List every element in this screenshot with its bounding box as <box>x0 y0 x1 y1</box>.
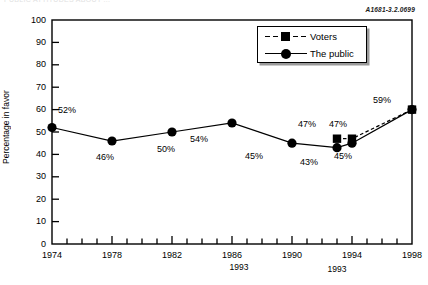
figure-container: PUBLIC ATTITUDES ABOUT ... A1681-3.2.069… <box>0 0 428 285</box>
y-axis-ticks <box>52 42 59 221</box>
square-marker-icon <box>281 32 290 41</box>
data-point-label: 45% <box>334 152 352 161</box>
legend-label-voters: Voters <box>310 32 337 42</box>
y-tick-label: 10 <box>18 217 46 226</box>
data-point-marker[interactable] <box>107 136 116 145</box>
data-point-marker[interactable] <box>287 139 296 148</box>
data-point-marker[interactable] <box>227 118 236 127</box>
legend-sample-the-public <box>262 47 310 61</box>
x-tick-label: 1978 <box>92 251 132 260</box>
x-tick-label: 1974 <box>32 251 72 260</box>
data-point-label: 54% <box>190 135 208 144</box>
series-line-voters <box>337 110 412 139</box>
legend-item-voters[interactable]: Voters <box>258 28 368 45</box>
y-tick-label: 80 <box>18 60 46 69</box>
data-point-label: 45% <box>245 152 263 161</box>
series-line-the-public <box>52 110 412 148</box>
y-tick-label: 60 <box>18 105 46 114</box>
x-tick-label: 1982 <box>152 251 192 260</box>
data-point-label: 47% <box>298 120 316 129</box>
data-point-label: 59% <box>373 96 391 105</box>
circle-marker-icon <box>281 49 291 59</box>
data-point-label: 46% <box>96 153 114 162</box>
chart-legend: Voters The public <box>257 26 367 63</box>
x-tick-label: 1990 <box>272 251 312 260</box>
y-tick-label: 50 <box>18 128 46 137</box>
data-point-label: 50% <box>157 145 175 154</box>
y-tick-label: 100 <box>18 16 46 25</box>
data-point-label: 47% <box>329 120 347 129</box>
data-point-label: 52% <box>58 106 76 115</box>
y-tick-label: 70 <box>18 83 46 92</box>
x-axis-ticks <box>67 236 397 244</box>
data-series-group <box>47 105 416 152</box>
y-tick-label: 90 <box>18 38 46 47</box>
x-tick-label: 1994 <box>332 251 372 260</box>
y-tick-label: 0 <box>18 240 46 249</box>
data-point-label: 43% <box>300 158 318 167</box>
legend-item-the-public[interactable]: The public <box>258 45 368 62</box>
legend-label-the-public: The public <box>310 49 354 59</box>
y-tick-label: 40 <box>18 150 46 159</box>
data-point-marker[interactable] <box>347 139 356 148</box>
y-tick-label: 20 <box>18 195 46 204</box>
x-tick-label: 1998 <box>392 251 428 260</box>
data-point-marker[interactable] <box>333 135 341 143</box>
data-point-marker[interactable] <box>407 105 416 114</box>
data-point-marker[interactable] <box>47 123 56 132</box>
y-tick-label: 30 <box>18 172 46 181</box>
x-tick-label: 1986 <box>212 251 252 260</box>
legend-sample-voters <box>262 30 310 44</box>
x-axis-annotation-1993: 1993 <box>317 264 357 274</box>
data-point-marker[interactable] <box>167 127 176 136</box>
